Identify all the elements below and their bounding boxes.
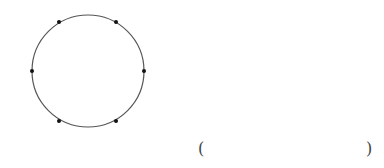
point-bottom-right [114, 119, 118, 123]
answer-close-paren: ) [366, 140, 372, 158]
point-bottom-left [57, 119, 61, 123]
answer-open-paren: ( [198, 140, 204, 158]
point-left [30, 69, 34, 73]
circle-points [30, 20, 146, 123]
circle [32, 15, 144, 127]
circle-diagram [0, 0, 384, 168]
point-top-right [114, 20, 118, 24]
point-top-left [57, 20, 61, 24]
point-right [142, 69, 146, 73]
